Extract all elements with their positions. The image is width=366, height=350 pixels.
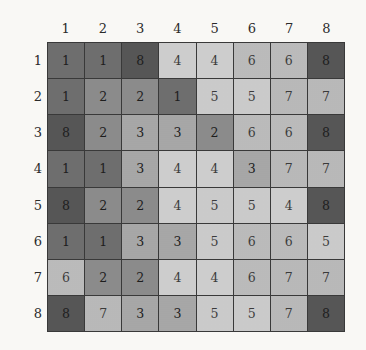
heatmap-cell-r1-c8: 8 <box>308 43 344 78</box>
heatmap-cell-r2-c8: 7 <box>308 79 344 114</box>
column-header-6: 6 <box>233 18 270 40</box>
heatmap-cell-r1-c5: 4 <box>197 43 233 78</box>
heatmap-cell-r8-c1: 8 <box>48 296 84 331</box>
heatmap-cell-r2-c7: 7 <box>271 79 307 114</box>
heatmap-cell-r4-c4: 4 <box>159 151 195 186</box>
heatmap-cell-r6-c5: 5 <box>197 224 233 259</box>
heatmap-cell-r4-c1: 1 <box>48 151 84 186</box>
heatmap-cell-r6-c8: 5 <box>308 224 344 259</box>
heatmap-cell-r7-c8: 7 <box>308 260 344 295</box>
column-header-7: 7 <box>271 18 308 40</box>
heatmap-cell-r1-c4: 4 <box>159 43 195 78</box>
heatmap-cell-r4-c6: 3 <box>234 151 270 186</box>
row-header-column: 1 2 3 4 5 6 7 8 <box>22 42 44 332</box>
heatmap-cell-r7-c4: 4 <box>159 260 195 295</box>
matrix-heatmap-figure: 1 2 3 4 5 6 7 8 1 2 3 4 5 6 7 8 11844668… <box>0 0 366 350</box>
heatmap-grid: 1184466812215577823326681134437782245548… <box>47 42 345 332</box>
heatmap-cell-r7-c6: 6 <box>234 260 270 295</box>
heatmap-cell-r6-c7: 6 <box>271 224 307 259</box>
heatmap-cell-r6-c4: 3 <box>159 224 195 259</box>
heatmap-cell-r2-c6: 5 <box>234 79 270 114</box>
heatmap-cell-r8-c6: 5 <box>234 296 270 331</box>
heatmap-cell-r4-c3: 3 <box>122 151 158 186</box>
heatmap-cell-r4-c8: 7 <box>308 151 344 186</box>
heatmap-cell-r8-c7: 7 <box>271 296 307 331</box>
column-header-5: 5 <box>196 18 233 40</box>
heatmap-cell-r6-c2: 1 <box>85 224 121 259</box>
heatmap-cell-r1-c1: 1 <box>48 43 84 78</box>
heatmap-cell-r8-c2: 7 <box>85 296 121 331</box>
heatmap-cell-r3-c8: 8 <box>308 115 344 150</box>
heatmap-cell-r7-c5: 4 <box>197 260 233 295</box>
heatmap-cell-r2-c5: 5 <box>197 79 233 114</box>
heatmap-cell-r7-c3: 2 <box>122 260 158 295</box>
heatmap-cell-r6-c3: 3 <box>122 224 158 259</box>
row-header-2: 2 <box>22 78 44 114</box>
heatmap-cell-r3-c5: 2 <box>197 115 233 150</box>
heatmap-cell-r7-c7: 7 <box>271 260 307 295</box>
heatmap-cell-r5-c4: 4 <box>159 188 195 223</box>
column-header-row: 1 2 3 4 5 6 7 8 <box>47 18 345 40</box>
heatmap-cell-r3-c2: 2 <box>85 115 121 150</box>
heatmap-cell-r1-c7: 6 <box>271 43 307 78</box>
heatmap-cell-r3-c6: 6 <box>234 115 270 150</box>
heatmap-cell-r3-c1: 8 <box>48 115 84 150</box>
heatmap-cell-r6-c6: 6 <box>234 224 270 259</box>
column-header-8: 8 <box>308 18 345 40</box>
row-header-6: 6 <box>22 223 44 259</box>
row-header-5: 5 <box>22 187 44 223</box>
column-header-1: 1 <box>47 18 84 40</box>
heatmap-cell-r8-c4: 3 <box>159 296 195 331</box>
heatmap-cell-r1-c2: 1 <box>85 43 121 78</box>
heatmap-cell-r8-c5: 5 <box>197 296 233 331</box>
heatmap-cell-r3-c7: 6 <box>271 115 307 150</box>
heatmap-cell-r2-c1: 1 <box>48 79 84 114</box>
column-header-4: 4 <box>159 18 196 40</box>
heatmap-cell-r2-c4: 1 <box>159 79 195 114</box>
heatmap-cell-r3-c3: 3 <box>122 115 158 150</box>
column-header-2: 2 <box>84 18 121 40</box>
heatmap-cell-r5-c2: 2 <box>85 188 121 223</box>
heatmap-cell-r6-c1: 1 <box>48 224 84 259</box>
heatmap-cell-r5-c7: 4 <box>271 188 307 223</box>
heatmap-cell-r8-c8: 8 <box>308 296 344 331</box>
heatmap-cell-r5-c5: 5 <box>197 188 233 223</box>
row-header-3: 3 <box>22 115 44 151</box>
heatmap-cell-r5-c8: 8 <box>308 188 344 223</box>
heatmap-cell-r2-c3: 2 <box>122 79 158 114</box>
heatmap-cell-r5-c1: 8 <box>48 188 84 223</box>
heatmap-cell-r7-c1: 6 <box>48 260 84 295</box>
column-header-3: 3 <box>122 18 159 40</box>
heatmap-cell-r1-c3: 8 <box>122 43 158 78</box>
heatmap-cell-r1-c6: 6 <box>234 43 270 78</box>
row-header-4: 4 <box>22 151 44 187</box>
row-header-7: 7 <box>22 260 44 296</box>
heatmap-cell-r5-c3: 2 <box>122 188 158 223</box>
heatmap-cell-r7-c2: 2 <box>85 260 121 295</box>
heatmap-cell-r4-c7: 7 <box>271 151 307 186</box>
heatmap-cell-r8-c3: 3 <box>122 296 158 331</box>
heatmap-cell-r5-c6: 5 <box>234 188 270 223</box>
heatmap-cell-r4-c2: 1 <box>85 151 121 186</box>
heatmap-cell-r3-c4: 3 <box>159 115 195 150</box>
row-header-8: 8 <box>22 296 44 332</box>
heatmap-cell-r2-c2: 2 <box>85 79 121 114</box>
heatmap-cell-r4-c5: 4 <box>197 151 233 186</box>
row-header-1: 1 <box>22 42 44 78</box>
